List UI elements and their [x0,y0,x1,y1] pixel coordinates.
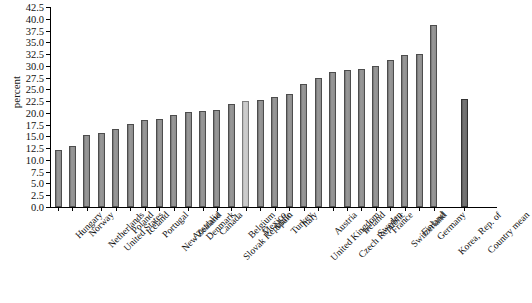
bar-germany [416,54,423,207]
bar-france [372,66,379,207]
bar-hungary [55,150,62,207]
bar-denmark [185,112,192,207]
y-tick-label: 30.0 [10,60,44,71]
bar-iceland [127,124,134,207]
y-tick-label: 15.0 [10,131,44,142]
bar-switzerland [387,60,394,207]
bar-slovak-republic [213,110,220,207]
bar-mexico [242,101,249,207]
bar-poland [112,129,119,207]
bar-netherlands [83,135,90,207]
y-tick-label: 12.5 [10,143,44,154]
bar-austria [315,78,322,207]
x-axis-labels: HungaryNorwayNetherlandsUnited StatesPol… [50,209,497,303]
bar-italy [286,94,293,207]
bar-united-kingdom [300,84,307,207]
bar-country-mean [461,99,468,207]
bar-turkey [271,97,278,207]
y-tick-label: 27.5 [10,72,44,83]
bar-australia [170,115,177,207]
y-tick-label: 2.5 [10,190,44,201]
y-tick-label: 35.0 [10,37,44,48]
y-tick-label: 32.5 [10,49,44,60]
bar-series [50,7,497,207]
y-tick-label: 5.0 [10,178,44,189]
bar-norway [69,146,76,207]
bar-united-states [98,133,105,207]
y-tick-label: 42.5 [10,2,44,13]
bar-korea-rep-of [430,25,437,207]
bar-canada [199,111,206,207]
y-tick-label: 40.0 [10,13,44,24]
y-tick-label: 7.5 [10,166,44,177]
bar-sweden [358,69,365,207]
y-tick-label: 17.5 [10,119,44,130]
bar-belgium [228,104,235,207]
y-tick-label: 10.0 [10,154,44,165]
bar-czech-republic [329,72,336,207]
bar-finland [401,55,408,207]
bar-spain [257,100,264,207]
y-tick-label: 20.0 [10,107,44,118]
bar-ireland [344,70,351,207]
y-tick-label: 22.5 [10,96,44,107]
bar-new-zealand [156,119,163,207]
y-tick-label: 25.0 [10,84,44,95]
plot-area: 0.02.55.07.510.012.515.017.520.022.525.0… [50,7,497,207]
bar-portugal [141,120,148,207]
x-axis-line [50,207,497,208]
y-tick-label: 0.0 [10,202,44,213]
y-tick-mark [46,207,50,208]
y-tick-label: 37.5 [10,25,44,36]
